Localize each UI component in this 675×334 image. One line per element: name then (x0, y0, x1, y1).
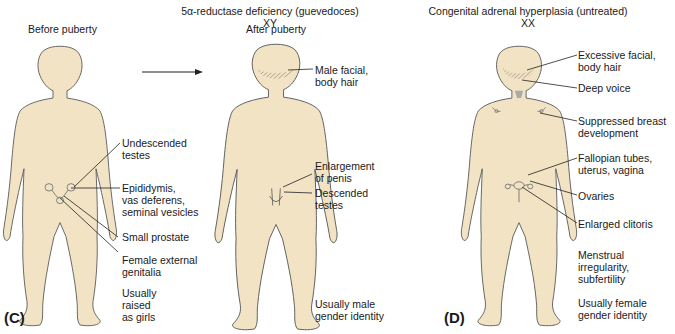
label-ovaries: Ovaries (578, 190, 614, 202)
label-small-prostate: Small prostate (122, 231, 189, 243)
label-enlargement-penis: Enlargement of penis (315, 160, 375, 184)
panel-label-c: (C) (4, 309, 25, 326)
before-puberty-heading: Before puberty (28, 23, 97, 35)
progression-arrow-icon (142, 69, 203, 75)
figure-before-puberty (3, 46, 116, 325)
panel-label-d: (D) (444, 309, 465, 326)
label-female-external-genitalia: Female external genitalia (122, 254, 197, 278)
label-fallopian-tubes: Fallopian tubes, uterus, vagina (578, 152, 652, 176)
label-enlarged-clitoris: Enlarged clitoris (578, 218, 653, 230)
after-puberty-heading: After puberty (246, 23, 306, 35)
label-deep-voice: Deep voice (578, 82, 631, 94)
label-descended-testes: Descended testes (315, 187, 368, 211)
label-male-facial-hair: Male facial, body hair (315, 64, 368, 88)
panel-d-title: Congenital adrenal hyperplasia (untreate… (418, 5, 638, 29)
label-epididymis: Epididymis, vas deferens, seminal vesicl… (122, 182, 198, 218)
karyotype-xx: XX (418, 17, 638, 29)
condition-title-cah: Congenital adrenal hyperplasia (untreate… (418, 5, 638, 17)
label-excessive-hair: Excessive facial, body hair (578, 49, 656, 73)
condition-title-5ard: 5α-reductase deficiency (guevedoces) (170, 5, 370, 17)
label-undescended-testes: Undescended testes (122, 137, 187, 161)
label-male-gender-identity: Usually male gender identity (315, 298, 384, 322)
label-raised-as-girls: Usually raised as girls (122, 287, 156, 323)
label-female-gender-identity: Usually female gender identity (578, 297, 647, 321)
label-menstrual-irregularity: Menstrual irregularity, subfertility (578, 249, 629, 285)
figure-cah (461, 46, 576, 325)
label-suppressed-breast: Suppressed breast development (578, 115, 666, 139)
